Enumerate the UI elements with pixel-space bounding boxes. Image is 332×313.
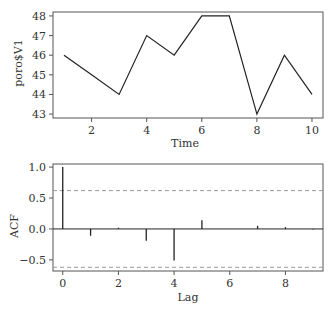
time-series-plot: 434445464748246810 (32, 10, 323, 137)
bottom-y-axis-label: ACF (8, 214, 21, 239)
x-tick-label: 2 (115, 277, 122, 290)
chart-canvas: 434445464748246810 −0.50.00.51.002468 Ti… (0, 0, 332, 313)
y-tick-label: 0.0 (29, 223, 47, 236)
x-tick-label: 4 (171, 277, 178, 290)
y-tick-label: 43 (32, 108, 46, 121)
bottom-x-axis-label: Lag (178, 291, 199, 304)
acf-plot: −0.50.00.51.002468 (19, 161, 323, 290)
y-tick-label: 44 (32, 88, 46, 101)
x-tick-label: 6 (226, 277, 233, 290)
y-tick-label: 46 (32, 49, 46, 62)
bottom-plot-frame (53, 164, 323, 271)
x-tick-label: 4 (143, 124, 150, 137)
y-tick-label: 47 (32, 30, 46, 43)
y-tick-label: 1.0 (29, 161, 47, 174)
top-y-axis-label: poro$V1 (12, 39, 25, 87)
x-tick-label: 2 (88, 124, 95, 137)
x-tick-label: 0 (59, 277, 66, 290)
top-plot-frame (53, 12, 323, 118)
top-x-axis-label: Time (171, 137, 199, 150)
x-tick-label: 6 (198, 124, 205, 137)
x-tick-label: 8 (282, 277, 289, 290)
y-tick-label: 48 (32, 10, 46, 23)
y-tick-label: 45 (32, 69, 46, 82)
y-tick-label: 0.5 (29, 192, 47, 205)
x-tick-label: 10 (305, 124, 319, 137)
x-tick-label: 8 (253, 124, 260, 137)
series-line (64, 16, 312, 114)
y-tick-label: −0.5 (19, 254, 46, 267)
